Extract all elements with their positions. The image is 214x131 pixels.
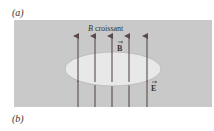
vector-e-label: E: [151, 81, 157, 93]
part-b-label: (b): [12, 113, 24, 124]
figure-title: B croissant: [88, 24, 124, 33]
svg-text:E: E: [151, 84, 156, 93]
magnetic-field-diagram: B croissant B E: [0, 0, 214, 131]
vector-b-label: B: [117, 41, 123, 53]
svg-text:B: B: [117, 44, 123, 53]
